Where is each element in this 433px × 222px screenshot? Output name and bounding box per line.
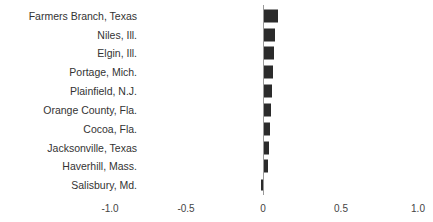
category-label: Elgin, Ill. [97,47,137,59]
bar [264,47,274,60]
category-label: Portage, Mich. [69,66,137,78]
bar [261,180,263,191]
bar [264,160,268,173]
bar [264,123,270,136]
x-tick-label: 1.0 [411,203,425,214]
bar [264,85,272,98]
bar-chart: Farmers Branch, Texas Niles, Ill. Elgin,… [0,0,433,222]
category-label: Cocoa, Fla. [83,123,137,135]
bar [264,142,269,155]
category-label: Plainfield, N.J. [70,85,137,97]
category-label: Haverhill, Mass. [62,160,137,172]
x-tick-label: -1.0 [101,203,118,214]
bar [264,104,271,117]
category-label: Niles, Ill. [97,29,137,41]
category-label: Orange County, Fla. [43,104,137,116]
category-label: Farmers Branch, Texas [29,10,137,22]
bar [264,66,273,79]
bar [264,29,275,42]
x-tick-label: 0.5 [334,203,348,214]
x-tick-label: -0.5 [177,203,194,214]
category-label: Salisbury, Md. [71,179,137,191]
bar [264,10,278,23]
x-tick-label: 0 [260,203,266,214]
category-label: Jacksonville, Texas [47,142,137,154]
